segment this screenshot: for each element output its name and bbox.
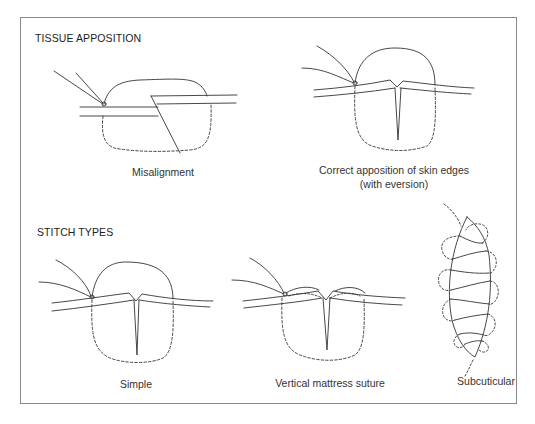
- correct-apposition-diagram: [302, 46, 474, 151]
- caption-misalignment: Misalignment: [103, 166, 223, 178]
- subcuticular-diagram: [438, 204, 498, 376]
- vertical-mattress-diagram: [232, 258, 405, 360]
- caption-vertical-mattress: Vertical mattress suture: [265, 377, 395, 389]
- caption-correct-apposition-line2: (with eversion): [314, 178, 474, 190]
- simple-stitch-diagram: [39, 260, 213, 363]
- caption-simple: Simple: [96, 378, 176, 390]
- caption-correct-apposition-line1: Correct apposition of skin edges: [314, 164, 474, 176]
- misalignment-diagram: [54, 71, 237, 153]
- caption-subcuticular: Subcuticular: [446, 375, 526, 387]
- suture-diagrams: [0, 0, 535, 424]
